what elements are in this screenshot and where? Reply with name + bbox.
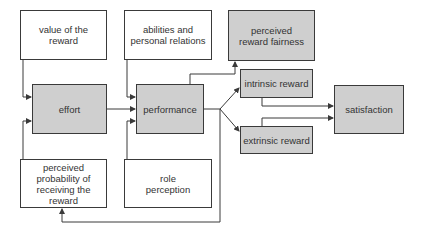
node-label: role perception xyxy=(141,173,196,195)
node-perceived-fairness: perceived reward fairness xyxy=(228,10,315,61)
node-label: extrinsic reward xyxy=(243,135,310,146)
node-label: satisfaction xyxy=(345,104,393,115)
node-perceived-probability: perceived probability of receiving the r… xyxy=(20,159,107,208)
node-label: performance xyxy=(143,104,196,115)
node-role-perception: role perception xyxy=(124,159,212,208)
node-performance: performance xyxy=(136,84,204,134)
node-satisfaction: satisfaction xyxy=(334,85,404,134)
node-value-of-reward: value of the reward xyxy=(20,10,107,60)
node-label: intrinsic reward xyxy=(245,78,309,89)
node-extrinsic-reward: extrinsic reward xyxy=(240,126,313,154)
node-label: effort xyxy=(59,104,80,115)
node-effort: effort xyxy=(32,84,107,134)
node-abilities: abilities and personal relations xyxy=(124,10,212,60)
node-label: perceived reward fairness xyxy=(237,25,307,47)
node-label: abilities and personal relations xyxy=(128,24,208,46)
node-intrinsic-reward: intrinsic reward xyxy=(240,69,313,98)
node-label: value of the reward xyxy=(34,24,94,46)
node-label: perceived probability of receiving the r… xyxy=(34,162,94,206)
